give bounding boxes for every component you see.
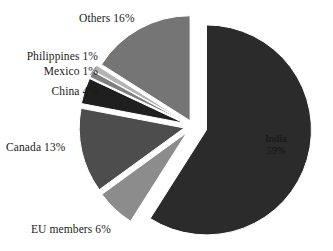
pie-label-china: China 4% bbox=[0, 85, 98, 97]
pie-label-india-name: India bbox=[248, 133, 304, 145]
pie-label-others: Others 16% bbox=[79, 12, 135, 24]
pie-label-india: India 59% bbox=[248, 133, 304, 158]
pie-chart-svg bbox=[0, 0, 333, 251]
pie-label-india-value: 59% bbox=[248, 145, 304, 157]
pie-label-eu-members: EU members 6% bbox=[31, 223, 111, 235]
pie-label-philippines: Philippines 1% bbox=[0, 50, 98, 62]
pie-label-mexico: Mexico 1% bbox=[0, 65, 98, 77]
pie-chart-figure: Others 16% Philippines 1% Mexico 1% Chin… bbox=[0, 0, 333, 251]
pie-label-canada: Canada 13% bbox=[6, 141, 65, 153]
pie-slices-group bbox=[79, 16, 311, 235]
